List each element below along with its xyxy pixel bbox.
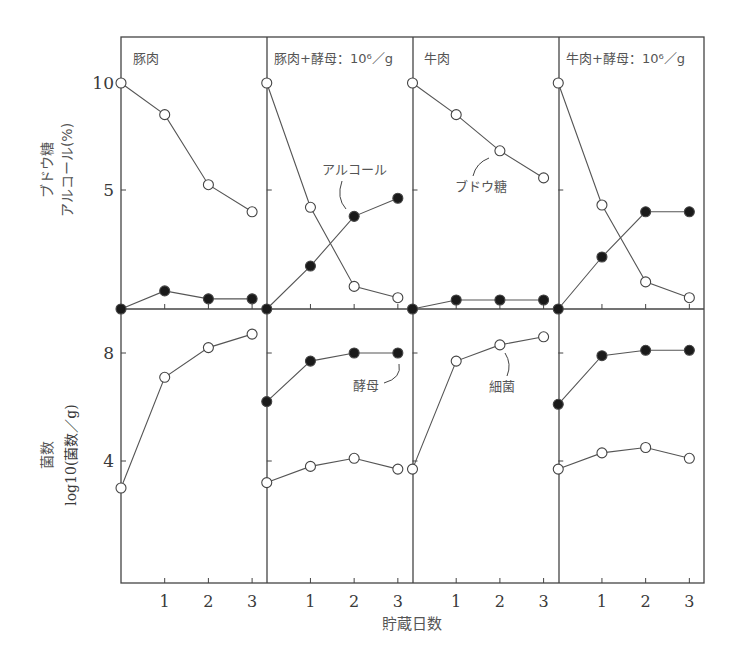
- ytick-10: 10: [92, 73, 114, 93]
- filled-marker: [684, 207, 694, 217]
- series-line: [121, 334, 252, 488]
- filled-marker: [349, 348, 359, 358]
- open-marker: [247, 329, 257, 339]
- series-line: [558, 350, 689, 404]
- x-tick-label: 2: [495, 592, 505, 611]
- top-ylabel-line1: ブドウ糖: [39, 142, 55, 198]
- open-marker: [203, 180, 213, 190]
- filled-marker: [160, 286, 170, 296]
- series-line: [121, 291, 252, 309]
- x-tick-labels: 123123123123: [160, 592, 695, 611]
- filled-marker: [262, 304, 272, 314]
- filled-marker: [305, 261, 315, 271]
- top-ylabel-line2: アルコール(%): [59, 123, 75, 217]
- x-tick-label: 2: [203, 592, 213, 611]
- ytick-4: 4: [103, 451, 114, 471]
- open-marker: [116, 483, 126, 493]
- panel-title-pork: 豚肉: [133, 51, 159, 66]
- series-line: [558, 83, 689, 298]
- x-tick-label: 1: [597, 592, 607, 611]
- open-marker: [160, 110, 170, 120]
- open-marker: [684, 293, 694, 303]
- open-marker: [408, 464, 418, 474]
- filled-marker: [641, 345, 651, 355]
- filled-marker: [116, 304, 126, 314]
- open-marker: [641, 277, 651, 287]
- chart-figure: 10 5 8 4 ブドウ糖 アルコール(%) 菌数 log10(菌数／g) 豚肉…: [0, 0, 743, 671]
- series-line: [558, 212, 689, 309]
- filled-marker: [349, 211, 359, 221]
- open-marker: [262, 478, 272, 488]
- x-tick-label: 3: [684, 592, 694, 611]
- open-marker: [305, 202, 315, 212]
- open-marker: [408, 78, 418, 88]
- ytick-5: 5: [103, 180, 114, 200]
- series-line: [267, 458, 398, 482]
- open-marker: [495, 340, 505, 350]
- series-line: [413, 83, 544, 178]
- open-marker: [539, 173, 549, 183]
- filled-marker: [262, 397, 272, 407]
- open-marker: [393, 464, 403, 474]
- ytick-8: 8: [103, 343, 114, 363]
- panel-title-beef: 牛肉: [424, 51, 450, 66]
- x-tick-label: 1: [305, 592, 315, 611]
- x-tick-label: 2: [349, 592, 359, 611]
- open-marker: [597, 200, 607, 210]
- annotation-alcohol: アルコール: [322, 162, 387, 177]
- panel-title-pork-yeast: 豚肉+酵母：10⁶／g: [274, 51, 393, 66]
- open-marker: [451, 110, 461, 120]
- open-marker: [247, 207, 257, 217]
- open-marker: [597, 448, 607, 458]
- open-marker: [451, 356, 461, 366]
- open-marker: [116, 78, 126, 88]
- filled-marker: [597, 252, 607, 262]
- open-marker: [349, 281, 359, 291]
- filled-marker: [393, 193, 403, 203]
- open-marker: [203, 343, 213, 353]
- filled-marker: [495, 295, 505, 305]
- annotation-arrow-alcohol: [340, 181, 346, 209]
- open-marker: [553, 78, 563, 88]
- open-marker: [393, 293, 403, 303]
- open-marker: [160, 372, 170, 382]
- bottom-ylabel-line1: 菌数: [39, 441, 55, 469]
- x-tick-label: 2: [641, 592, 651, 611]
- x-tick-label: 3: [393, 592, 403, 611]
- filled-marker: [451, 295, 461, 305]
- filled-marker: [553, 399, 563, 409]
- series-line: [413, 300, 544, 309]
- series-line: [267, 83, 398, 298]
- open-marker: [553, 464, 563, 474]
- bottom-ylabel-line2: log10(菌数／g): [63, 404, 79, 506]
- filled-marker: [684, 345, 694, 355]
- open-marker: [349, 453, 359, 463]
- x-tick-label: 3: [539, 592, 549, 611]
- open-marker: [305, 461, 315, 471]
- annotation-yeast: 酵母: [353, 378, 379, 393]
- filled-marker: [305, 356, 315, 366]
- annotation-arrow-yeast: [384, 364, 399, 383]
- annotation-arrow-glucose: [473, 158, 489, 176]
- open-marker: [262, 78, 272, 88]
- filled-marker: [553, 304, 563, 314]
- data-series: [116, 78, 694, 493]
- x-tick-label: 1: [160, 592, 170, 611]
- filled-marker: [539, 295, 549, 305]
- panel-title-beef-yeast: 牛肉+酵母：10⁶／g: [566, 51, 685, 66]
- filled-marker: [247, 294, 257, 304]
- series-line: [121, 83, 252, 212]
- annotation-bacteria: 細菌: [489, 379, 515, 394]
- annotation-glucose: ブドウ糖: [455, 179, 507, 194]
- open-marker: [641, 443, 651, 453]
- series-line: [558, 448, 689, 470]
- filled-marker: [597, 351, 607, 361]
- filled-marker: [393, 348, 403, 358]
- filled-marker: [203, 294, 213, 304]
- open-marker: [539, 332, 549, 342]
- x-tick-label: 3: [247, 592, 257, 611]
- filled-marker: [408, 304, 418, 314]
- open-marker: [684, 453, 694, 463]
- axis-ticks: [121, 83, 689, 583]
- open-marker: [495, 146, 505, 156]
